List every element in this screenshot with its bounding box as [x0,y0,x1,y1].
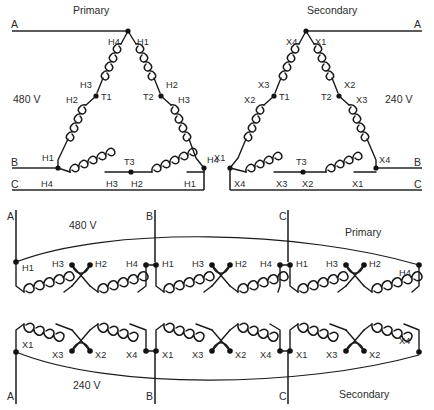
primary-t1-lower-lead [86,96,96,105]
secondary-g2-coil-left [164,323,204,341]
primary-t1-label: T1 [101,92,112,102]
primary-g3-label-left: H1 [296,259,308,269]
primary-coil-b-upper [136,44,156,80]
secondary-term-bl-lower: X4 [234,179,245,189]
primary-g1-coil-left-tail [64,286,72,292]
secondary-g3-x3-node [343,348,349,354]
secondary-g2-label-midright: X2 [235,350,246,360]
primary-g2-bridge-arc [212,265,230,273]
primary-term-left-upper: H3 [80,80,92,90]
secondary-term-left-upper: X3 [258,80,269,90]
primary-term-bl-upper: H1 [42,153,54,163]
primary-t3-label: T3 [124,157,135,167]
secondary-coil-c-right [326,152,362,172]
secondary-g1-coil-left-tail [56,324,72,330]
lower-secondary-voltage-label: 240 V [73,379,100,391]
primary-coil-c-right [152,148,197,172]
secondary-term-bm-right: X2 [302,179,313,189]
secondary-coil-a-upper [279,44,299,80]
primary-phase-c-label: C [11,178,19,190]
secondary-term-br-lower: X1 [352,179,363,189]
secondary-g3-left-lead [290,324,298,351]
secondary-voltage-label: 240 V [385,93,412,105]
secondary-term-right-lower: X3 [356,95,367,105]
secondary-phase-a-label: A [414,18,421,30]
secondary-left-upper-tail [275,78,281,93]
primary-phase-b-label: B [11,156,18,168]
primary-g1-label-midright: H2 [95,259,107,269]
secondary-coil-b-lower [349,105,369,141]
secondary-g3-label-midright: X2 [369,350,380,360]
primary-g3-coil-right-head [364,286,372,292]
primary-g1-label-midleft: H3 [52,259,64,269]
secondary-term-right-upper: X2 [344,80,355,90]
secondary-g3-x4-node [416,349,422,355]
secondary-g3-coil-left-tail [330,324,346,330]
primary-term-apex-right: H1 [137,37,149,47]
secondary-coil-a-lower [244,105,264,141]
primary-coil-c-left [70,148,115,172]
secondary-g1-label-midright: X2 [95,350,106,360]
secondary-coil-b-upper [314,44,334,80]
lower-phase-b-top-label: B [146,210,153,222]
primary-b-corner-lead [58,139,68,168]
secondary-g1-bridge-arc [72,343,90,351]
secondary-delta-group: Secondary 240 V A B C X4 X1 X3 X2 T1 X2 … [214,4,422,190]
secondary-g1-coil-right [98,323,138,341]
primary-term-br-lower: H1 [184,179,196,189]
secondary-term-apex-left: X4 [286,37,297,47]
secondary-tie-arc [16,352,419,380]
primary-g3-right-lead [412,265,419,292]
primary-g3-bridge-arc [346,265,364,273]
diagram-canvas: Primary 480 V A B C H4 H1 H3 H2 T1 H2 H3… [0,0,434,410]
secondary-term-left-lower: X2 [244,95,255,105]
primary-g1-coil-right-head [90,286,98,292]
primary-g1-label-left: H1 [22,263,34,273]
secondary-g2-x3-node [209,348,215,354]
secondary-term-apex-right: X1 [315,37,326,47]
primary-term-bm-right: H2 [131,179,143,189]
secondary-g2-x2-node [227,348,233,354]
secondary-term-bl-upper: X1 [214,153,225,163]
primary-term-bl-lower: H4 [41,179,53,189]
primary-title: Primary [73,4,110,16]
lower-primary-voltage-label: 480 V [69,219,96,231]
secondary-term-br-upper: X4 [379,155,390,165]
secondary-t1-label: T1 [279,92,290,102]
secondary-t2-label: T2 [321,92,332,102]
primary-g3-left-lead [290,265,298,292]
secondary-g1-label-midleft: X3 [52,350,63,360]
secondary-g1-coil-right-head [90,324,98,330]
secondary-g2-coil-right [238,323,278,341]
secondary-t3-label: T3 [296,157,307,167]
secondary-coil-c-left [246,152,282,172]
secondary-g3-x2-node [361,348,367,354]
primary-term-right-lower: H3 [178,95,190,105]
secondary-g3-coil-left [298,323,338,341]
primary-g2-label-midright: H2 [235,259,247,269]
secondary-t1-lower-lead [264,96,274,105]
secondary-g2-bridge-arc [212,343,230,351]
lower-phase-c-bottom-label: C [279,390,287,402]
secondary-title: Secondary [307,4,358,16]
secondary-br-corner-node [373,165,378,170]
primary-tie-arc [16,237,419,265]
primary-coil-b-lower [171,105,191,141]
secondary-g3-label-left: X1 [296,350,307,360]
lower-phase-c-top-label: C [279,210,287,222]
primary-bottom-left-lead [58,168,70,172]
lower-phase-a-top-label: A [7,210,14,222]
primary-g3-coil-left-tail [338,286,346,292]
primary-coil-a-upper [101,44,121,80]
lower-primary-title: Primary [345,226,382,238]
primary-g3-h4-node [416,262,422,268]
primary-g1-right-lead [138,265,146,292]
primary-g2-h3-node [209,262,215,268]
primary-apex-node [125,28,130,33]
secondary-t2-lower-lead [339,96,349,105]
primary-g3-label-midleft: H3 [326,259,338,269]
secondary-g1-label-left: X1 [22,340,33,350]
primary-g2-label-left: H1 [162,259,174,269]
primary-phase-a-label: A [11,18,18,30]
lower-phase-a-bottom-label: A [7,390,14,402]
